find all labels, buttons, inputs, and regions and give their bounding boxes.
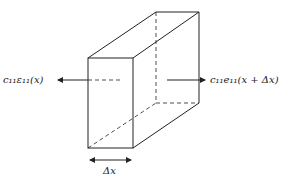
left-stress-label: c₁₁ε₁₁(x)	[3, 74, 43, 85]
box-diagram	[0, 0, 308, 182]
thickness-label: Δx	[103, 165, 116, 176]
right-stress-label: c₁₁e₁₁(x + Δx)	[210, 74, 279, 85]
front-face	[88, 58, 133, 148]
